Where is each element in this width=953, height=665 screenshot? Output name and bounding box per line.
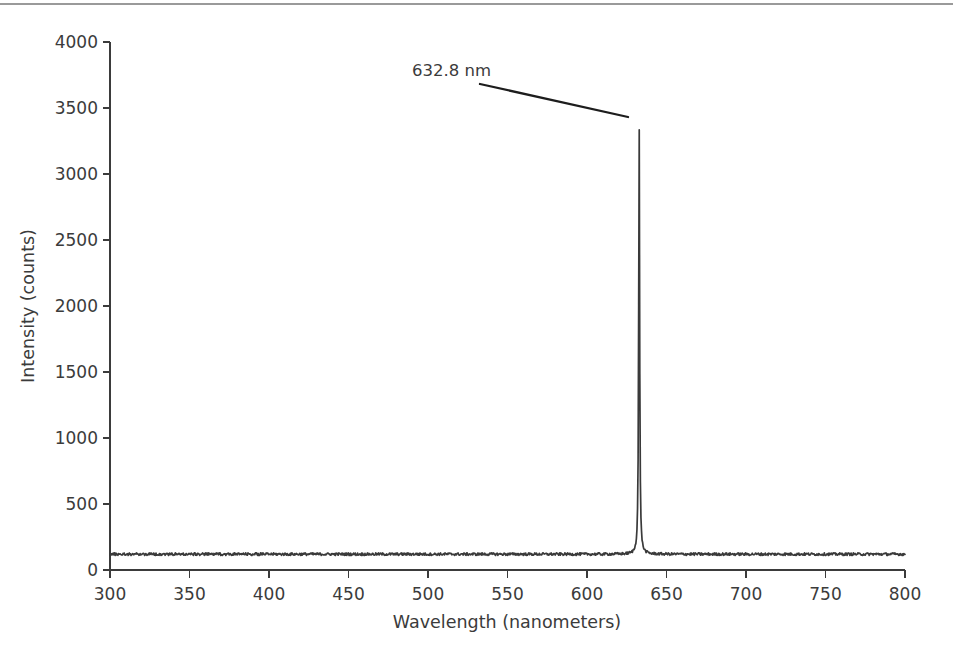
y-tick-label: 1000 [55,428,98,448]
y-axis-ticks [103,42,110,570]
y-tick-label: 0 [87,560,98,580]
x-tick-label: 300 [94,584,126,604]
y-tick-label: 500 [66,494,98,514]
x-axis-tick-labels: 300350400450500550600650700750800 [94,584,921,604]
y-tick-label: 3000 [55,164,98,184]
page-bottom-artifact [0,659,953,665]
x-tick-label: 750 [809,584,841,604]
x-tick-label: 500 [412,584,444,604]
x-tick-label: 700 [730,584,762,604]
x-tick-label: 550 [491,584,523,604]
y-axis-title: Intensity (counts) [18,229,38,383]
spectrum-chart: 05001000150020002500300035004000 3003504… [0,0,953,665]
x-tick-label: 350 [173,584,205,604]
x-tick-label: 650 [650,584,682,604]
y-tick-label: 3500 [55,98,98,118]
y-tick-label: 1500 [55,362,98,382]
x-tick-label: 800 [889,584,921,604]
plot-area-background [110,42,905,570]
x-axis-title: Wavelength (nanometers) [393,612,621,632]
y-tick-label: 2000 [55,296,98,316]
figure-page: 05001000150020002500300035004000 3003504… [0,0,953,665]
annotation-label: 632.8 nm [412,61,491,80]
y-tick-label: 4000 [55,32,98,52]
y-axis-tick-labels: 05001000150020002500300035004000 [55,32,98,580]
x-tick-label: 450 [332,584,364,604]
x-axis-ticks [110,570,905,578]
x-tick-label: 600 [571,584,603,604]
y-axis: 05001000150020002500300035004000 [55,32,110,580]
x-tick-label: 400 [253,584,285,604]
x-axis: 300350400450500550600650700750800 [94,570,921,604]
y-tick-label: 2500 [55,230,98,250]
spectrum-figure: 05001000150020002500300035004000 3003504… [0,0,953,665]
